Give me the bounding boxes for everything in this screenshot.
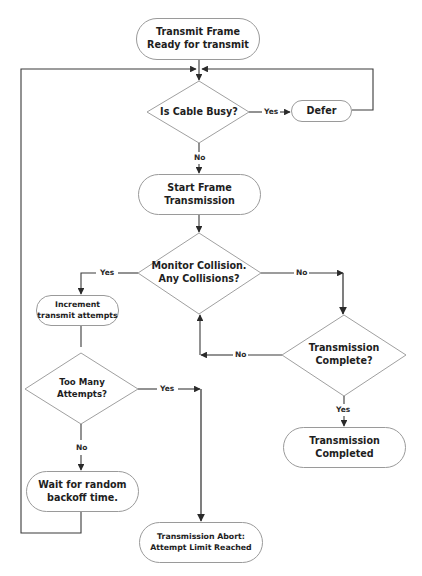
node-start-line1: Transmit Frame bbox=[147, 26, 249, 39]
node-abort-line2: Attempt Limit Reached bbox=[150, 543, 251, 554]
node-abort-line1: Transmission Abort: bbox=[150, 532, 251, 543]
node-increment-line2: transmit attempts bbox=[37, 311, 117, 322]
edge-label-txcomplete-no: No bbox=[233, 351, 248, 359]
decision-too-many-line2: Attempts? bbox=[57, 389, 107, 401]
edge-label-cable-yes: Yes bbox=[262, 108, 280, 116]
node-abort: Transmission Abort:Attempt Limit Reached bbox=[139, 522, 263, 563]
node-transmission-completed: TransmissionCompleted bbox=[283, 427, 406, 468]
edge-label-toomany-no: No bbox=[74, 444, 89, 452]
node-defer: Defer bbox=[291, 100, 352, 122]
edge-label-monitor-no: No bbox=[294, 269, 309, 277]
node-start: Transmit FrameReady for transmit bbox=[136, 18, 260, 60]
decision-tx-complete: TransmissionComplete? bbox=[292, 337, 396, 373]
node-backoff-line2: backoff time. bbox=[38, 492, 126, 505]
decision-monitor-line2: Any Collisions? bbox=[151, 273, 246, 286]
node-completed-line1: Transmission bbox=[309, 435, 380, 448]
node-start-line2: Ready for transmit bbox=[147, 39, 249, 52]
node-increment: Incrementtransmit attempts bbox=[36, 295, 119, 326]
node-completed-line2: Completed bbox=[309, 448, 380, 461]
decision-too-many-line1: Too Many bbox=[57, 377, 107, 389]
edge-label-toomany-yes: Yes bbox=[158, 385, 176, 393]
node-start-tx-line2: Transmission bbox=[164, 195, 235, 208]
edge-label-monitor-yes: Yes bbox=[98, 269, 116, 277]
decision-too-many-attempts: Too ManyAttempts? bbox=[36, 372, 128, 406]
node-start-transmission: Start FrameTransmission bbox=[138, 174, 261, 215]
edge-monitor-yes-b bbox=[81, 273, 96, 294]
edge-label-cable-no: No bbox=[192, 154, 207, 162]
node-increment-line1: Increment bbox=[37, 300, 117, 311]
node-backoff: Wait for randombackoff time. bbox=[26, 471, 139, 512]
decision-cable-busy: Is Cable Busy? bbox=[152, 102, 246, 122]
node-start-tx-line1: Start Frame bbox=[164, 182, 235, 195]
edge-label-txcomplete-yes: Yes bbox=[334, 406, 352, 414]
decision-monitor-line1: Monitor Collision. bbox=[151, 260, 246, 273]
decision-monitor-collision: Monitor Collision.Any Collisions? bbox=[143, 255, 255, 291]
node-backoff-line1: Wait for random bbox=[38, 479, 126, 492]
decision-tx-complete-line2: Complete? bbox=[309, 355, 380, 368]
decision-tx-complete-line1: Transmission bbox=[309, 342, 380, 355]
decision-cable-busy-line1: Is Cable Busy? bbox=[160, 106, 238, 119]
node-defer-line1: Defer bbox=[307, 105, 337, 118]
